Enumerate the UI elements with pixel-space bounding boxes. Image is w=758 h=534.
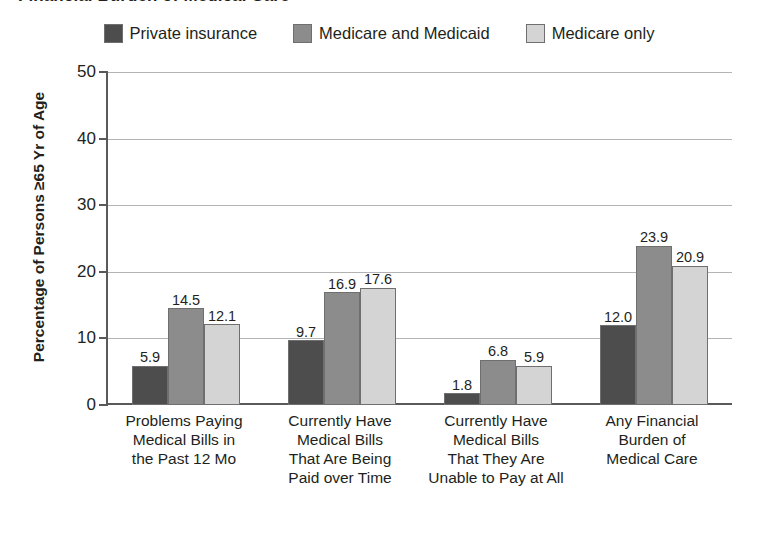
bar[interactable]: 1.8 bbox=[444, 393, 480, 405]
chart-title: Financial Burden of Medical Care bbox=[18, 0, 538, 4]
legend-item-private-insurance[interactable]: Private insurance bbox=[104, 24, 257, 43]
bar[interactable]: 16.9 bbox=[324, 292, 360, 405]
bar-value-label: 17.6 bbox=[364, 272, 392, 287]
category-label-line: Burden of bbox=[568, 431, 736, 450]
bar-value-label: 12.0 bbox=[604, 310, 632, 325]
y-axis-tick-label: 50 bbox=[36, 62, 96, 82]
bar-value-label: 20.9 bbox=[676, 250, 704, 265]
category-label-line: Medical Care bbox=[568, 450, 736, 469]
category-label-line: the Past 12 Mo bbox=[100, 450, 268, 469]
gridline bbox=[108, 205, 732, 206]
category-label-line: Problems Paying bbox=[100, 412, 268, 431]
bar-value-label: 5.9 bbox=[140, 350, 160, 365]
legend-swatch-icon bbox=[293, 24, 312, 43]
y-axis-tick bbox=[99, 204, 108, 206]
y-axis-tick-label: 30 bbox=[36, 195, 96, 215]
category-label-line: Unable to Pay at All bbox=[412, 469, 580, 488]
chart-figure: Financial Burden of Medical Care Private… bbox=[0, 0, 758, 534]
y-axis-title: Percentage of Persons ≥65 Yr of Age bbox=[30, 52, 48, 402]
gridline bbox=[108, 139, 732, 140]
category-label-line: Medical Bills in bbox=[100, 431, 268, 450]
bar[interactable]: 23.9 bbox=[636, 246, 672, 405]
bar-value-label: 23.9 bbox=[640, 230, 668, 245]
bar-value-label: 14.5 bbox=[172, 293, 200, 308]
bar-value-label: 12.1 bbox=[208, 309, 236, 324]
category-label-line: Paid over Time bbox=[256, 469, 424, 488]
bar[interactable]: 5.9 bbox=[132, 366, 168, 405]
y-axis-tick bbox=[99, 71, 108, 73]
x-axis-category-label: Currently HaveMedical BillsThat Are Bein… bbox=[256, 412, 424, 488]
legend-item-medicare-and-medicaid[interactable]: Medicare and Medicaid bbox=[293, 24, 490, 43]
plot-area: 5.914.512.19.716.917.61.86.85.912.023.92… bbox=[106, 72, 732, 405]
bar-value-label: 9.7 bbox=[296, 325, 316, 340]
bar-value-label: 16.9 bbox=[328, 277, 356, 292]
category-label-line: Any Financial bbox=[568, 412, 736, 431]
legend-label: Medicare only bbox=[552, 24, 655, 43]
y-axis-tick-label: 0 bbox=[36, 395, 96, 415]
bar[interactable]: 20.9 bbox=[672, 266, 708, 405]
x-axis-category-label: Problems PayingMedical Bills inthe Past … bbox=[100, 412, 268, 469]
bar[interactable]: 9.7 bbox=[288, 340, 324, 405]
bar-value-label: 1.8 bbox=[452, 378, 472, 393]
bar[interactable]: 5.9 bbox=[516, 366, 552, 405]
y-axis-tick-label: 20 bbox=[36, 262, 96, 282]
bar-value-label: 6.8 bbox=[488, 344, 508, 359]
y-axis-tick bbox=[99, 404, 108, 406]
bar-value-label: 5.9 bbox=[524, 350, 544, 365]
bar[interactable]: 6.8 bbox=[480, 360, 516, 405]
category-label-line: Currently Have bbox=[256, 412, 424, 431]
bar[interactable]: 17.6 bbox=[360, 288, 396, 405]
category-label-line: That They Are bbox=[412, 450, 580, 469]
legend-swatch-icon bbox=[526, 24, 545, 43]
x-axis-category-label: Currently HaveMedical BillsThat They Are… bbox=[412, 412, 580, 488]
category-label-line: Medical Bills bbox=[256, 431, 424, 450]
legend-label: Private insurance bbox=[130, 24, 257, 43]
category-label-line: Medical Bills bbox=[412, 431, 580, 450]
y-axis-tick-label: 40 bbox=[36, 129, 96, 149]
bar[interactable]: 12.0 bbox=[600, 325, 636, 405]
y-axis-tick bbox=[99, 138, 108, 140]
bar[interactable]: 12.1 bbox=[204, 324, 240, 405]
y-axis-tick bbox=[99, 337, 108, 339]
legend-item-medicare-only[interactable]: Medicare only bbox=[526, 24, 655, 43]
legend-swatch-icon bbox=[104, 24, 123, 43]
legend-label: Medicare and Medicaid bbox=[319, 24, 490, 43]
category-label-line: Currently Have bbox=[412, 412, 580, 431]
chart-legend: Private insurance Medicare and Medicaid … bbox=[0, 18, 758, 48]
category-label-line: That Are Being bbox=[256, 450, 424, 469]
y-axis-tick bbox=[99, 271, 108, 273]
y-axis-tick-label: 10 bbox=[36, 328, 96, 348]
x-axis-category-label: Any FinancialBurden ofMedical Care bbox=[568, 412, 736, 469]
bar[interactable]: 14.5 bbox=[168, 308, 204, 405]
gridline bbox=[108, 72, 732, 73]
plot-inner: 5.914.512.19.716.917.61.86.85.912.023.92… bbox=[108, 72, 732, 405]
